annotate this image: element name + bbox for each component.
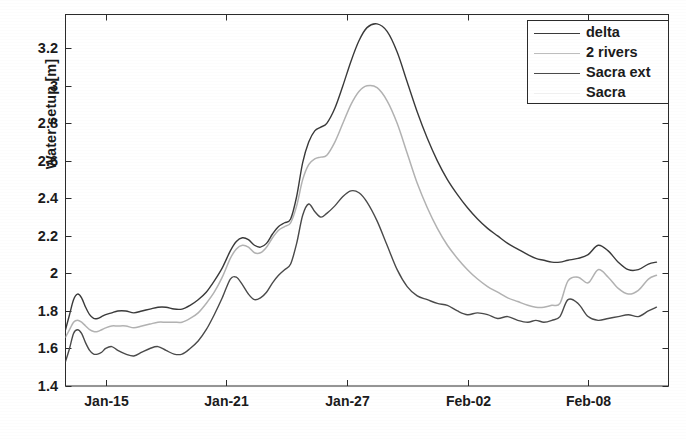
legend-line-sample-2-rivers [534,47,580,59]
y-tick-label: 1.4 [38,378,58,394]
y-tick-label: 2 [50,265,58,281]
legend-label: 2 rivers [586,45,638,60]
legend-item-sacra-ext[interactable]: Sacra ext [528,62,668,83]
y-tick-label: 2.6 [38,153,58,169]
legend-line-sample-sacra-ext [534,67,580,79]
x-tick-label: Jan-27 [325,393,369,409]
x-tick-label: Jan-15 [84,393,128,409]
chart-legend[interactable]: delta 2 rivers Sacra ext Sacra [527,20,669,104]
legend-item-delta[interactable]: delta [528,22,668,43]
legend-item-2-rivers[interactable]: 2 rivers [528,42,668,63]
y-tick-label: 1.8 [38,303,58,319]
legend-item-sacra[interactable]: Sacra [528,82,668,103]
x-tick-label: Jan-21 [204,393,248,409]
legend-label: Sacra [586,85,626,100]
y-tick-label: 1.6 [38,340,58,356]
x-tick-label: Feb-08 [566,393,611,409]
y-tick-label: 3.2 [38,40,58,56]
legend-label: Sacra ext [586,65,651,80]
y-tick-label: 3 [50,78,58,94]
figure-caption [6,428,680,439]
y-tick-label: 2.8 [38,115,58,131]
legend-label: delta [586,25,620,40]
legend-line-sample-delta [534,27,580,39]
figure-container: Water setup [m] 1.41.61.822.22.42.62.833… [0,0,686,439]
legend-line-sample-sacra [534,87,580,99]
y-tick-label: 2.4 [38,190,58,206]
y-tick-label: 2.2 [38,228,58,244]
x-tick-label: Feb-02 [446,393,491,409]
